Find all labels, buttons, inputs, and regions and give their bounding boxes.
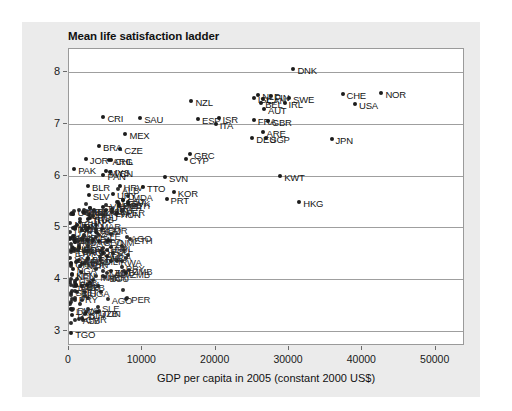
data-point-label: PRY bbox=[91, 207, 110, 218]
y-tick-mark bbox=[63, 278, 67, 279]
data-point bbox=[261, 97, 265, 101]
data-point bbox=[68, 221, 72, 225]
data-point bbox=[105, 248, 109, 252]
data-point-label: CRI bbox=[107, 112, 123, 123]
x-tick-label: 50000 bbox=[420, 353, 449, 365]
data-point-label: KWT bbox=[284, 171, 305, 182]
x-tick-label: 0 bbox=[65, 353, 71, 365]
data-point-label: NOR bbox=[385, 88, 406, 99]
data-point bbox=[189, 99, 193, 103]
data-point-label: JOR bbox=[90, 154, 108, 165]
x-tick-label: 30000 bbox=[273, 353, 302, 365]
data-point bbox=[123, 132, 127, 136]
data-point-label: MAR bbox=[100, 271, 121, 282]
data-point bbox=[84, 157, 88, 161]
data-point-label: USA bbox=[359, 100, 378, 111]
data-point-label: CHE bbox=[347, 89, 366, 100]
data-point bbox=[341, 92, 345, 96]
data-point bbox=[184, 157, 188, 161]
data-point bbox=[69, 212, 73, 216]
data-point-label: AUT bbox=[268, 104, 286, 115]
data-point bbox=[141, 185, 145, 189]
y-tick-label: 6 bbox=[34, 169, 60, 181]
data-point-label: ARG bbox=[113, 156, 133, 167]
data-point-label: IRL bbox=[289, 99, 303, 110]
data-point-label: NPL bbox=[115, 243, 133, 254]
data-point-label: NZL bbox=[195, 97, 212, 108]
data-point bbox=[80, 298, 84, 302]
data-point bbox=[115, 259, 119, 263]
data-point-label: DNK bbox=[297, 65, 316, 76]
data-point bbox=[196, 117, 200, 121]
data-point bbox=[259, 101, 263, 105]
data-point bbox=[117, 204, 121, 208]
data-point-label: LKA bbox=[76, 242, 93, 253]
data-point bbox=[75, 277, 79, 281]
data-point-label: SAU bbox=[144, 113, 163, 124]
x-tick-label: 20000 bbox=[200, 353, 229, 365]
data-point-label: JPN bbox=[336, 135, 353, 146]
data-point bbox=[69, 307, 73, 311]
data-point-label: RWA bbox=[121, 256, 142, 267]
data-point-label: ETH bbox=[134, 234, 152, 245]
data-point-label: AGO bbox=[112, 295, 133, 306]
y-tick-mark bbox=[63, 330, 67, 331]
data-point bbox=[97, 239, 101, 243]
data-point bbox=[69, 300, 73, 304]
data-point bbox=[107, 158, 111, 162]
data-point bbox=[121, 288, 125, 292]
data-point-label: ITA bbox=[220, 119, 233, 130]
data-point-label: PER bbox=[131, 293, 150, 304]
data-point bbox=[70, 273, 74, 277]
data-point bbox=[97, 144, 101, 148]
y-tick-label: 8 bbox=[34, 65, 60, 77]
data-point-label: PAN bbox=[107, 171, 125, 182]
data-point-label: HKG bbox=[303, 198, 323, 209]
x-tick-mark bbox=[68, 346, 69, 350]
x-tick-label: 10000 bbox=[127, 353, 156, 365]
data-point bbox=[86, 184, 90, 188]
gridline-y bbox=[69, 331, 463, 332]
data-point-label: SLV bbox=[93, 191, 110, 202]
data-point-label: CZE bbox=[124, 144, 142, 155]
data-point-label: LAO bbox=[78, 281, 96, 292]
x-tick-mark bbox=[435, 346, 436, 350]
data-point bbox=[111, 192, 115, 196]
data-point-label: PRT bbox=[171, 194, 189, 205]
data-point bbox=[68, 256, 72, 260]
y-tick-label: 5 bbox=[34, 220, 60, 232]
data-point bbox=[116, 187, 120, 191]
data-point bbox=[278, 174, 282, 178]
data-point bbox=[69, 321, 73, 325]
data-point bbox=[72, 167, 76, 171]
x-tick-mark bbox=[361, 346, 362, 350]
data-point bbox=[87, 193, 91, 197]
data-point bbox=[291, 67, 295, 71]
data-point bbox=[262, 107, 266, 111]
y-tick-label: 7 bbox=[34, 117, 60, 129]
data-point-label: SGP bbox=[270, 134, 289, 145]
data-point-label: MEX bbox=[129, 130, 149, 141]
data-point-label: PER bbox=[123, 201, 142, 212]
x-tick-mark bbox=[215, 346, 216, 350]
data-point bbox=[138, 116, 142, 120]
data-point-label: SVN bbox=[169, 172, 188, 183]
data-point-label: NER bbox=[86, 259, 105, 270]
data-point bbox=[379, 91, 383, 95]
data-point-label: ALB bbox=[83, 315, 100, 326]
data-point bbox=[94, 274, 98, 278]
data-point bbox=[353, 102, 357, 106]
data-point bbox=[252, 96, 256, 100]
y-tick-label: 4 bbox=[34, 272, 60, 284]
gridline-y bbox=[69, 72, 463, 73]
y-tick-label: 3 bbox=[34, 324, 60, 336]
data-point bbox=[69, 264, 73, 268]
chart-title: Mean life satisfaction ladder bbox=[68, 30, 219, 42]
x-tick-mark bbox=[288, 346, 289, 350]
x-tick-mark bbox=[141, 346, 142, 350]
y-tick-mark bbox=[63, 71, 67, 72]
data-point bbox=[77, 208, 81, 212]
data-point bbox=[106, 297, 110, 301]
data-point bbox=[252, 118, 256, 122]
data-point-label: UZB bbox=[74, 228, 92, 239]
